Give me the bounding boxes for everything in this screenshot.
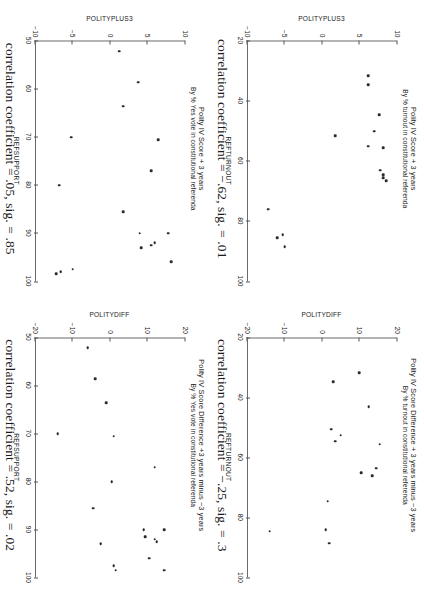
data-point	[267, 207, 270, 210]
panel-title: Polity IV Score + 3 years	[409, 10, 418, 287]
y-tick-label: 20	[393, 326, 400, 333]
y-axis-label: POLITYDIFF	[247, 309, 397, 321]
y-tick-label: 10	[181, 30, 188, 37]
data-point	[326, 499, 329, 502]
data-point	[367, 144, 370, 147]
x-tick-label: 80	[237, 217, 244, 224]
data-point	[137, 80, 140, 83]
x-tick-label: 80	[25, 477, 32, 484]
plot-area: POLITYDIFF 20100−10−20 20406080100 REFTU…	[225, 307, 397, 584]
x-tick-mark	[34, 385, 38, 386]
data-point	[150, 243, 153, 246]
y-axis-label: POLITYPLUS3	[35, 12, 185, 24]
panel-caption: correlation coefficient = −.62, sig. = .…	[214, 0, 230, 297]
x-axis-ticks: 5060708090100	[23, 40, 35, 281]
data-point	[360, 471, 363, 474]
x-tick-mark	[246, 577, 250, 578]
data-point	[367, 405, 370, 408]
y-tick-label: −10	[243, 26, 250, 37]
y-tick-label: 20	[181, 326, 188, 333]
data-point	[112, 564, 115, 567]
axes-frame	[35, 40, 185, 281]
panel-subtitle: By % turnout in constitutional referenda	[401, 307, 409, 584]
data-point	[112, 434, 115, 437]
plot-area: POLITYDIFF 20100−10−20 5060708090100 REF…	[13, 307, 185, 584]
x-tick-label: 60	[237, 157, 244, 164]
y-axis-label: POLITYDIFF	[35, 309, 185, 321]
x-tick-mark	[246, 457, 250, 458]
panel-caption: correlation coefficient = −.25, sig. = .…	[214, 297, 230, 593]
panel-titles: Polity IV Score + 3 years By % turnout i…	[401, 10, 418, 287]
x-tick-label: 40	[237, 393, 244, 400]
y-axis-ticks: 20100−10−20	[247, 321, 397, 337]
data-point	[328, 541, 331, 544]
panel-titles: Polity IV Score Difference + 3 years min…	[401, 307, 418, 584]
data-point	[385, 179, 388, 182]
data-point	[70, 136, 73, 139]
y-tick-label: 0	[318, 330, 325, 334]
x-tick-label: 70	[25, 133, 32, 140]
plot-area: POLITYPLUS3 1050−5−10 20406080100 REFTUR…	[225, 10, 397, 287]
x-tick-mark	[34, 88, 38, 89]
data-point	[330, 428, 333, 431]
panel-titles: Polity IV Score + 3 years By % Yes vote …	[189, 10, 206, 287]
x-tick-mark	[34, 232, 38, 233]
y-tick-label: 5	[144, 33, 151, 37]
data-point	[367, 74, 370, 77]
x-tick-mark	[34, 433, 38, 434]
x-tick-mark	[34, 184, 38, 185]
scatter-panel-bottom-left: Polity IV Score + 3 years By % Yes vote …	[0, 0, 212, 297]
panel-grid: Polity IV Score + 3 years By % turnout i…	[0, 0, 424, 593]
y-tick-label: −10	[69, 322, 76, 333]
panel-caption: correlation coefficient = .52, sig. = .0…	[2, 297, 18, 593]
y-tick-label: 10	[356, 326, 363, 333]
x-tick-label: 80	[237, 513, 244, 520]
data-point	[375, 466, 378, 469]
axes-frame	[247, 40, 397, 281]
data-point	[170, 260, 173, 263]
x-tick-mark	[246, 337, 250, 338]
x-tick-label: 60	[25, 381, 32, 388]
data-point	[281, 233, 284, 236]
x-axis-ticks: 20406080100	[235, 40, 247, 281]
x-tick-mark	[246, 160, 250, 161]
data-point	[118, 49, 121, 52]
x-tick-mark	[246, 397, 250, 398]
data-point	[105, 401, 108, 404]
x-tick-mark	[34, 577, 38, 578]
data-point	[142, 528, 145, 531]
data-point	[382, 146, 385, 149]
scatter-panel-bottom-right: Polity IV Score Difference +3 years minu…	[0, 297, 212, 593]
data-point	[71, 267, 74, 270]
panel-title: Polity IV Score Difference +3 years minu…	[197, 307, 206, 584]
x-tick-label: 80	[25, 181, 32, 188]
data-point	[167, 231, 170, 234]
x-axis-ticks: 20406080100	[235, 337, 247, 578]
y-tick-label: 10	[144, 326, 151, 333]
plot-area: POLITYPLUS3 1050−5−10 5060708090100 REFS…	[13, 10, 185, 287]
x-tick-label: 90	[25, 525, 32, 532]
data-point	[276, 236, 279, 239]
x-tick-mark	[34, 337, 38, 338]
x-tick-mark	[246, 281, 250, 282]
data-point	[99, 542, 102, 545]
axes-frame	[247, 337, 397, 578]
data-point	[373, 130, 376, 133]
y-tick-label: −20	[243, 322, 250, 333]
x-tick-mark	[34, 136, 38, 137]
x-axis-ticks: 5060708090100	[23, 337, 35, 578]
x-tick-mark	[34, 281, 38, 282]
data-point	[153, 241, 156, 244]
panel-title: Polity IV Score Difference + 3 years min…	[409, 307, 418, 584]
x-tick-label: 50	[25, 36, 32, 43]
data-point	[94, 377, 97, 380]
x-tick-label: 100	[25, 275, 32, 286]
data-point	[382, 173, 385, 176]
panel-title: Polity IV Score + 3 years	[197, 10, 206, 287]
y-tick-label: −20	[31, 322, 38, 333]
x-tick-label: 40	[237, 96, 244, 103]
data-point	[332, 380, 335, 383]
data-point	[269, 529, 272, 532]
data-point	[139, 231, 142, 234]
x-tick-mark	[34, 40, 38, 41]
